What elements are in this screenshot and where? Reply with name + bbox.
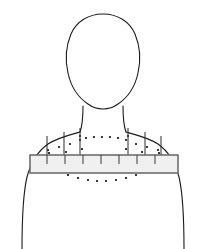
upper-arc-dot-0 [47,149,49,151]
upper-arc-dot-6 [101,136,103,138]
upper-arc-dot-4 [85,137,87,139]
upper-arc-dot-2 [69,143,71,145]
lower-arc-dot-0 [67,174,69,176]
scatter-dot-0 [48,152,50,154]
upper-arc-dot-1 [58,146,60,148]
scatter-dot-5 [125,148,127,150]
lower-arc-dot-1 [77,177,79,179]
figure-background [0,0,206,249]
lower-arc-dot-6 [125,177,127,179]
upper-arc-dot-7 [109,136,111,138]
scatter-dot-4 [127,135,129,137]
upper-arc-dot-10 [135,143,137,145]
lower-arc-dot-2 [87,179,89,181]
scatter-dot-1 [65,151,67,153]
upper-arc-dot-5 [93,136,95,138]
scatter-dot-3 [79,135,81,137]
scatter-dot-2 [81,148,83,150]
lower-arc-dot-3 [96,180,98,182]
upper-arc-dot-8 [117,137,119,139]
upper-arc-dot-12 [157,149,159,151]
upper-arc-dot-11 [146,146,148,148]
anatomical-figure-panel [0,0,206,249]
scatter-dot-6 [141,151,143,153]
anatomical-figure-svg [0,0,206,249]
horizontal-measurement-bar [30,155,178,173]
scatter-dot-7 [158,152,160,154]
lower-arc-dot-5 [115,179,117,181]
lower-arc-dot-7 [135,174,137,176]
lower-arc-dot-4 [105,180,107,182]
upper-arc-dot-3 [79,139,81,141]
upper-arc-dot-9 [125,139,127,141]
